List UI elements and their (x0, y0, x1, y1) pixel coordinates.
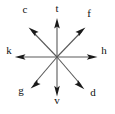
ray-label-northwest: c (18, 4, 32, 15)
ray-south (54, 57, 60, 97)
ray-southeast-line (57, 57, 81, 85)
ray-label-west: k (2, 45, 16, 56)
ray-west (15, 54, 57, 60)
ray-southwest-line (34, 57, 57, 84)
ray-northwest (29, 28, 57, 57)
ray-southwest-arrowhead (31, 80, 41, 89)
ray-label-east: h (97, 45, 111, 56)
ray-southwest (31, 57, 57, 88)
vector-diagram-figure: t f h d v g k c (0, 0, 115, 114)
ray-east (57, 54, 98, 60)
ray-label-southwest: g (14, 85, 28, 96)
ray-label-northeast: f (82, 8, 96, 19)
ray-northeast (57, 28, 85, 57)
ray-northeast-arrowhead (75, 28, 85, 37)
ray-southeast-arrowhead (75, 80, 85, 89)
ray-northwest-arrowhead (29, 28, 39, 37)
ray-northwest-line (32, 31, 57, 57)
ray-southeast (57, 57, 84, 89)
ray-northeast-line (57, 31, 82, 57)
ray-label-south: v (50, 95, 64, 106)
ray-label-north: t (50, 3, 64, 14)
ray-north (54, 18, 60, 57)
ray-label-southeast: d (86, 87, 100, 98)
